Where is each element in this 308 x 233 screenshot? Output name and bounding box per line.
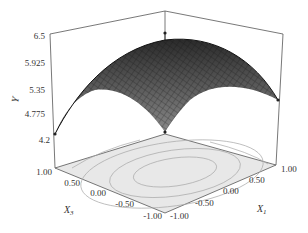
left-tick: 1.00 [36, 167, 52, 177]
z-axis-title: Y [9, 95, 21, 104]
z-tick: 5.925 [25, 58, 46, 68]
right-axis-title: X1 [256, 203, 267, 216]
floor-plane [55, 134, 276, 213]
z-tick: 4.2 [39, 135, 50, 145]
right-tick: 0.50 [249, 175, 265, 185]
left-tick: 0.50 [64, 178, 80, 188]
z-tick: 4.775 [25, 109, 46, 119]
right-tick: -0.50 [195, 198, 214, 208]
left-tick: -1.00 [143, 211, 162, 221]
right-tick: 0.00 [223, 186, 239, 196]
z-axis: 6.5 5.925 5.35 4.775 4.2 Y [9, 31, 50, 145]
surface-plot: 6.5 5.925 5.35 4.775 4.2 Y 1.00 0.50 0.0… [0, 0, 308, 233]
left-axis-subscript: 3 [69, 209, 74, 217]
right-tick: 1.00 [281, 164, 297, 174]
z-tick: 6.5 [34, 31, 46, 41]
right-axis-subscript: 1 [263, 208, 267, 216]
right-tick: -1.00 [170, 211, 189, 221]
left-tick: 0.00 [90, 188, 106, 198]
z-tick: 5.35 [29, 85, 45, 95]
left-axis-title: X3 [63, 204, 74, 217]
left-tick: -0.50 [115, 199, 134, 209]
response-surface [55, 39, 278, 134]
